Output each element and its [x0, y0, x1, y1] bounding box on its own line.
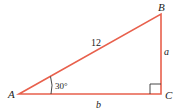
side-a-label: a — [164, 46, 169, 57]
triangle-outline — [19, 14, 161, 94]
right-triangle-diagram: A B C 12 a b 30° — [0, 0, 177, 112]
vertex-label-b: B — [158, 1, 165, 13]
vertex-label-a: A — [7, 88, 15, 100]
side-b-label: b — [96, 99, 101, 110]
angle-label: 30° — [55, 81, 68, 91]
angle-arc-a — [51, 77, 53, 95]
vertex-label-c: C — [165, 89, 173, 101]
right-angle-marker — [150, 84, 161, 94]
hypotenuse-label: 12 — [91, 37, 101, 48]
triangle-figure: A B C 12 a b 30° — [0, 0, 177, 112]
